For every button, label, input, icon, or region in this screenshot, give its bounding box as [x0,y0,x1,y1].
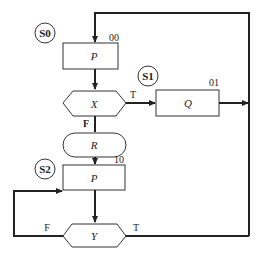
state-label-s1: S1 [142,70,154,82]
state-code-s1: 01 [209,77,219,88]
decision-false-x: F [83,118,89,129]
state-s1: S1 01 Q [138,66,219,116]
state-s0: S0 00 P [35,23,119,69]
loop-connector [14,191,63,236]
conditional-label-r: R [90,139,98,151]
state-output-s0: P [90,50,98,62]
state-code-s0: 00 [109,32,119,43]
decision-true-y: T [133,222,139,233]
decision-false-y: F [44,222,50,233]
state-output-s1: Q [184,97,192,109]
decision-true-x: T [130,89,136,100]
state-s2: S2 10 P [35,154,125,190]
state-code-s2: 10 [114,154,124,165]
state-output-s2: P [90,172,98,184]
state-label-s0: S0 [39,27,51,39]
decision-y: Y T F [44,222,139,247]
asm-chart: S0 00 P X T F S1 01 Q R S2 10 P [0,0,260,257]
decision-x: X T F [63,89,136,129]
decision-label-x: X [90,98,99,110]
state-label-s2: S2 [39,163,51,175]
